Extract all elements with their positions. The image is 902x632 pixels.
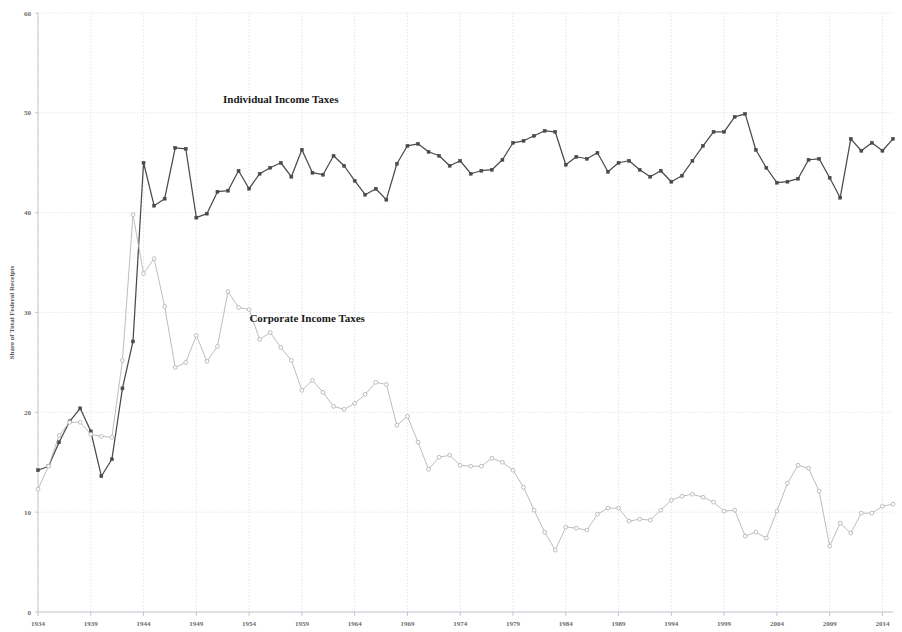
individual-data-point-marker <box>754 148 757 151</box>
corporate-data-point-marker <box>321 390 325 394</box>
corporate-data-point-marker <box>543 530 547 534</box>
individual-data-point-marker <box>818 157 821 160</box>
corporate-data-point-marker <box>89 432 93 436</box>
individual-data-point-marker <box>480 169 483 172</box>
corporate-data-point-marker <box>437 455 441 459</box>
corporate-data-point-marker <box>733 508 737 512</box>
individual-data-point-marker <box>512 141 515 144</box>
individual-data-point-marker <box>322 173 325 176</box>
corporate-data-point-marker <box>47 464 51 468</box>
corporate-data-point-marker <box>258 338 262 342</box>
individual-data-point-marker <box>585 157 588 160</box>
individual-data-point-marker <box>543 129 546 132</box>
individual-data-point-marker <box>279 161 282 164</box>
corporate-data-point-marker <box>564 525 568 529</box>
individual-data-point-marker <box>258 172 261 175</box>
individual-data-point-marker <box>775 181 778 184</box>
corporate-data-point-marker <box>849 531 853 535</box>
corporate-data-point-marker <box>121 359 125 363</box>
x-tick-label: 1984 <box>559 620 574 628</box>
individual-data-point-marker <box>617 161 620 164</box>
corporate-data-point-marker <box>669 498 673 502</box>
individual-data-point-marker <box>353 179 356 182</box>
individual-data-point-marker <box>533 134 536 137</box>
individual-data-point-marker <box>575 155 578 158</box>
corporate-data-point-marker <box>205 360 209 364</box>
corporate-data-point-marker <box>870 511 874 515</box>
corporate-data-point-marker <box>807 466 811 470</box>
corporate-data-point-marker <box>638 517 642 521</box>
individual-data-point-marker <box>205 212 208 215</box>
individual-data-point-marker <box>765 166 768 169</box>
x-axis-tick-labels: 1934193919441949195419591964196919741979… <box>31 620 890 628</box>
individual-data-point-marker <box>786 180 789 183</box>
individual-data-point-marker <box>438 154 441 157</box>
corporate-data-point-marker <box>859 511 863 515</box>
individual-data-point-marker <box>448 164 451 167</box>
corporate-data-point-marker <box>712 500 716 504</box>
x-tick-label: 2014 <box>875 620 890 628</box>
x-tick-label: 1969 <box>400 620 415 628</box>
corporate-data-point-marker <box>617 506 621 510</box>
individual-data-point-marker <box>649 175 652 178</box>
individual-data-point-marker <box>733 115 736 118</box>
individual-data-point-marker <box>332 154 335 157</box>
individual-data-point-marker <box>680 174 683 177</box>
corporate-data-point-marker <box>279 346 283 350</box>
individual-data-point-marker <box>881 149 884 152</box>
individual-data-point-marker <box>469 172 472 175</box>
individual-data-point-marker <box>195 216 198 219</box>
corporate-data-point-marker <box>247 308 251 312</box>
individual-data-point-marker <box>839 196 842 199</box>
individual-data-point-marker <box>628 159 631 162</box>
corporate-data-point-marker <box>416 440 420 444</box>
individual-data-point-marker <box>607 170 610 173</box>
individual-data-point-marker <box>121 387 124 390</box>
y-axis-tick-labels: 0102030405060 <box>24 10 32 617</box>
individual-data-point-marker <box>828 176 831 179</box>
corporate-data-point-marker <box>522 485 526 489</box>
corporate-data-point-marker <box>152 257 156 261</box>
individual-data-point-marker <box>723 130 726 133</box>
corporate-data-point-marker <box>163 305 167 309</box>
individual-data-point-marker <box>290 175 293 178</box>
individual-data-point-marker <box>311 171 314 174</box>
axis-group <box>35 13 893 616</box>
individual-data-point-marker <box>691 159 694 162</box>
corporate-data-point-marker <box>374 380 378 384</box>
corporate-data-point-marker <box>110 435 114 439</box>
corporate-data-point-marker <box>406 414 410 418</box>
individual-data-point-marker <box>184 147 187 150</box>
individual-data-point-marker <box>142 161 145 164</box>
y-tick-label: 0 <box>28 609 32 617</box>
tax-receipts-line-chart: 0102030405060 19341939194419491954195919… <box>0 0 902 632</box>
individual-data-point-marker <box>501 158 504 161</box>
individual-data-point-marker <box>712 130 715 133</box>
individual-data-point-marker <box>269 166 272 169</box>
corporate-data-point-marker <box>775 509 779 513</box>
corporate-data-point-marker <box>184 361 188 365</box>
x-tick-label: 1994 <box>664 620 679 628</box>
corporate-data-point-marker <box>627 519 631 523</box>
corporate-data-point-marker <box>596 512 600 516</box>
corporate-data-point-marker <box>501 460 505 464</box>
individual-data-point-marker <box>79 407 82 410</box>
individual-data-point-marker <box>564 163 567 166</box>
corporate-data-point-marker <box>427 467 431 471</box>
corporate-income-taxes-line <box>38 215 893 550</box>
individual-data-point-marker <box>132 340 135 343</box>
corporate-data-point-marker <box>36 487 40 491</box>
y-tick-label: 30 <box>24 309 32 317</box>
x-tick-label: 1964 <box>348 620 363 628</box>
x-tick-label: 1934 <box>31 620 46 628</box>
individual-data-point-marker <box>37 469 40 472</box>
corporate-data-point-marker <box>817 489 821 493</box>
corporate-data-point-marker <box>743 534 747 538</box>
individual-data-point-marker <box>870 141 873 144</box>
corporate-data-point-marker <box>701 495 705 499</box>
corporate-data-point-marker <box>891 502 895 506</box>
corporate-data-point-marker <box>659 508 663 512</box>
corporate-data-point-marker <box>553 548 557 552</box>
individual-data-point-marker <box>744 112 747 115</box>
series-annotations-group: Individual Income TaxesCorporate Income … <box>223 93 366 325</box>
